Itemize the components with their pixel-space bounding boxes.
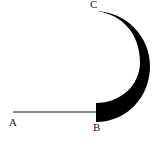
crescent-arc-bc bbox=[96, 11, 150, 122]
label-b: B bbox=[93, 121, 100, 133]
geometry-diagram: A B C bbox=[0, 0, 166, 142]
label-c: C bbox=[90, 0, 97, 10]
label-a: A bbox=[9, 116, 17, 128]
